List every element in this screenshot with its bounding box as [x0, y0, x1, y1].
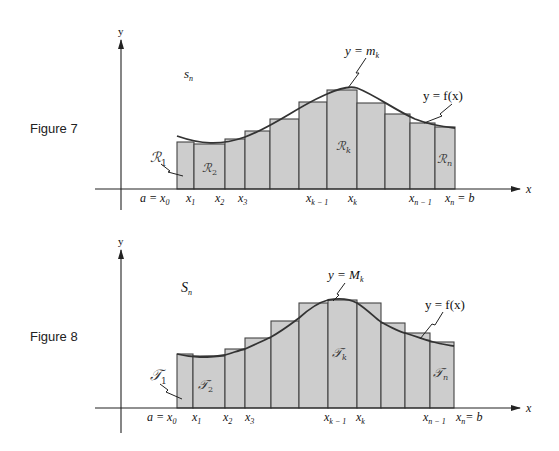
figure-8-height-label: y = Mk — [326, 267, 364, 284]
rectangle — [225, 139, 245, 189]
figure-7-curve-leader — [424, 104, 452, 123]
tick-x3: x3 — [237, 191, 247, 207]
figure-7-caption: Figure 7 — [30, 121, 78, 136]
figure-7-height-label: y = mk — [343, 43, 379, 60]
figure-7-rectangles — [177, 90, 455, 189]
rectangle — [299, 303, 328, 408]
figure-7-y-label: y — [118, 25, 124, 37]
tick-x3: x3 — [244, 410, 254, 426]
tick-x0: a = x0 — [140, 191, 169, 207]
rectangle — [381, 323, 405, 408]
rectangle — [270, 119, 299, 189]
tick-x1: x1 — [191, 410, 201, 426]
tick-x0: a = x0 — [147, 410, 176, 426]
riemann-sum-figures: Figure 7 y x sn y = mk y = f(x) — [0, 0, 559, 451]
figure-8-curve-leader — [420, 312, 443, 339]
rectangle — [405, 333, 430, 408]
figure-7-sum-label: sn — [184, 66, 193, 83]
tick-x1: x1 — [185, 191, 195, 207]
figure-7-region-label-1: ℛ1 — [150, 149, 167, 168]
tick-xk-1: xk − 1 — [323, 410, 346, 426]
tick-xn: xn = b — [444, 191, 474, 207]
rectangle-r1 — [177, 142, 194, 189]
figure-8-rectangles — [177, 300, 454, 408]
figure-8: Figure 8 y x Sn y = Mk y = f(x) — [30, 235, 532, 433]
tick-xk: xk — [355, 410, 365, 426]
rectangle — [225, 349, 245, 408]
tick-xn: xn= b — [455, 410, 482, 426]
rectangle-t1 — [177, 354, 193, 408]
tick-xn-1: xn − 1 — [408, 191, 432, 207]
rectangle — [385, 114, 410, 189]
rectangle — [245, 131, 270, 189]
tick-x2: x2 — [222, 410, 232, 426]
figure-8-region-label-1: 𝒯1 — [150, 366, 167, 386]
figure-8-tick-labels: a = x0 x1 x2 x3 xk − 1 xk xn − 1 xn= b — [147, 410, 482, 426]
rectangle — [299, 102, 327, 189]
tick-xk: xk — [347, 191, 357, 207]
figure-8-sum-label: Sn — [181, 280, 192, 297]
figure-7-height-leader — [348, 58, 366, 88]
tick-xn-1: xn − 1 — [422, 410, 446, 426]
rectangle — [410, 123, 435, 189]
figure-8-curve-label: y = f(x) — [425, 297, 465, 312]
figure-8-y-label: y — [118, 235, 124, 247]
figure-8-caption: Figure 8 — [30, 329, 78, 344]
figure-7-x-label: x — [525, 182, 532, 196]
figure-8-x-label: x — [525, 401, 532, 415]
figure-7: Figure 7 y x sn y = mk y = f(x) — [30, 25, 532, 210]
tick-x2: x2 — [214, 191, 224, 207]
figure-7-curve-label: y = f(x) — [423, 88, 463, 103]
figure-7-tick-labels: a = x0 x1 x2 x3 xk − 1 xk xn − 1 xn = b — [140, 191, 474, 207]
tick-xk-1: xk − 1 — [305, 191, 328, 207]
rectangle — [357, 103, 385, 189]
rectangle — [245, 338, 271, 408]
